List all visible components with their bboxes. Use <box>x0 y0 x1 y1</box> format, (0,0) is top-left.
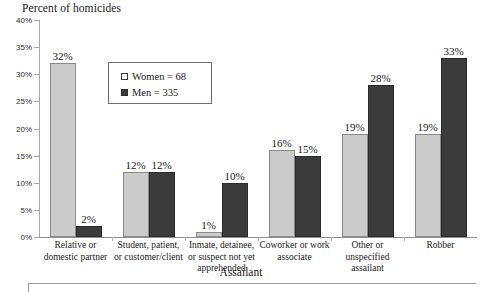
legend-swatch-men-icon <box>121 89 128 96</box>
bottom-rule <box>28 283 476 284</box>
bar-value-label: 19% <box>344 121 364 133</box>
bar-men: 15% <box>295 156 321 237</box>
bar-women: 12% <box>123 172 149 237</box>
y-axis-tick-label: 35% <box>16 43 32 52</box>
legend-item-women: Women = 68 <box>121 68 211 84</box>
bar-value-label: 12% <box>125 159 145 171</box>
bar-value-label: 1% <box>201 219 216 231</box>
bar-women: 19% <box>415 134 441 237</box>
bar-men: 10% <box>222 183 248 237</box>
y-axis-tick-label: 25% <box>16 97 32 106</box>
bar-value-label: 33% <box>443 45 463 57</box>
bar-value-label: 28% <box>370 72 390 84</box>
legend-label-women: Women = 68 <box>132 71 186 82</box>
bar-men: 33% <box>441 58 467 237</box>
bar-chart: Percent of homicides 0%5%10%15%20%25%30%… <box>0 0 482 292</box>
y-axis-tick-label: 10% <box>16 178 32 187</box>
y-axis-tick-mark <box>34 237 39 238</box>
bar-value-label: 16% <box>271 137 291 149</box>
y-axis-title: Percent of homicides <box>22 2 121 14</box>
plot-area: 0%5%10%15%20%25%30%35%40% 32%2%12%12%1%1… <box>39 20 477 237</box>
bar-value-label: 19% <box>417 121 437 133</box>
bar-men: 2% <box>76 226 102 237</box>
legend-item-men: Men = 335 <box>121 84 211 100</box>
bar-value-label: 32% <box>52 50 72 62</box>
bar-group: 16%15% <box>258 20 331 237</box>
y-axis-tick-label: 30% <box>16 70 32 79</box>
bar-women: 1% <box>196 232 222 237</box>
bar-group: 1%10% <box>185 20 258 237</box>
bar-men: 12% <box>149 172 175 237</box>
bar-value-label: 10% <box>224 170 244 182</box>
chart-legend: Women = 68 Men = 335 <box>108 62 212 104</box>
bar-value-label: 12% <box>151 159 171 171</box>
legend-label-men: Men = 335 <box>132 87 178 98</box>
bottom-rule-tick <box>28 283 29 292</box>
legend-swatch-women-icon <box>121 73 128 80</box>
bar-women: 32% <box>50 63 76 237</box>
y-axis-tick-label: 0% <box>20 233 32 242</box>
bar-women: 19% <box>342 134 368 237</box>
bar-group: 19%33% <box>404 20 477 237</box>
x-axis-label-line: Robber <box>398 240 482 252</box>
bar-women: 16% <box>269 150 295 237</box>
y-axis-tick-label: 5% <box>20 205 32 214</box>
y-axis-tick-label: 20% <box>16 124 32 133</box>
bar-men: 28% <box>368 85 394 237</box>
y-axis-tick-label: 15% <box>16 151 32 160</box>
bar-group: 32%2% <box>39 20 112 237</box>
x-axis-label: Robber <box>398 240 482 252</box>
x-axis-label-line: unspecified <box>325 252 410 264</box>
bar-value-label: 15% <box>297 143 317 155</box>
bar-value-label: 2% <box>81 213 96 225</box>
x-axis-title: Assailant <box>0 266 482 278</box>
bar-group: 12%12% <box>112 20 185 237</box>
y-axis-tick-label: 40% <box>16 16 32 25</box>
bar-group: 19%28% <box>331 20 404 237</box>
